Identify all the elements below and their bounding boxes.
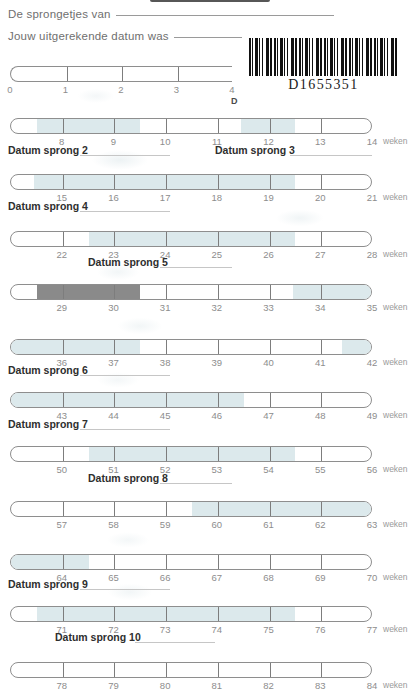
week-tick-label: 44 <box>108 410 119 421</box>
week-tick <box>166 502 167 516</box>
week-tick <box>218 393 219 407</box>
week-tick <box>114 119 115 133</box>
week-tick-label: 17 <box>160 192 171 203</box>
datum-sprong-blank-line[interactable] <box>135 642 215 643</box>
barcode: D1655351 <box>249 38 398 93</box>
week-tick <box>218 340 219 354</box>
datum-sprong-blank-line[interactable] <box>80 155 170 156</box>
week-tick <box>270 232 271 246</box>
week-tick <box>63 447 64 461</box>
leap-band-dark <box>37 285 140 299</box>
week-scale-bar[interactable] <box>10 392 372 408</box>
week-tick <box>270 555 271 569</box>
week-tick <box>63 607 64 621</box>
week-tick-label: 4 <box>229 84 234 95</box>
week-tick <box>270 607 271 621</box>
datum-sprong-blank-line[interactable] <box>80 429 170 430</box>
week-tick <box>63 663 64 677</box>
week-tick <box>114 447 115 461</box>
week-tick-label: 42 <box>367 357 378 368</box>
week-tick-label: 63 <box>367 519 378 530</box>
week-tick-label: 41 <box>315 357 326 368</box>
week-tick-label: 37 <box>108 357 119 368</box>
week-tick <box>321 119 322 133</box>
week-tick <box>178 67 179 81</box>
leap-band-light <box>293 285 372 299</box>
week-tick-label: 16 <box>108 192 119 203</box>
week-tick-label: 25 <box>212 249 223 260</box>
leap-band-light <box>37 119 140 133</box>
clipped-text-fragment: D <box>231 96 238 106</box>
week-tick-label: 2 <box>118 84 123 95</box>
week-scale-bar[interactable] <box>10 606 372 622</box>
header-label-due-date: Jouw uitgerekende datum was <box>8 30 169 42</box>
week-tick <box>218 607 219 621</box>
week-tick-label: 80 <box>160 680 171 691</box>
week-tick <box>166 447 167 461</box>
week-tick <box>166 232 167 246</box>
weken-unit-label: weken <box>383 519 408 529</box>
week-tick <box>270 663 271 677</box>
blank-line-child-name[interactable] <box>116 15 334 16</box>
weken-unit-label: weken <box>383 136 408 146</box>
datum-sprong-blank-line[interactable] <box>160 267 232 268</box>
week-tick-label: 10 <box>160 136 171 147</box>
week-scale-bar[interactable] <box>10 66 232 82</box>
blank-line-due-date[interactable] <box>174 37 242 38</box>
week-scale-bar[interactable] <box>10 174 372 190</box>
week-tick <box>218 663 219 677</box>
week-scale-bar[interactable] <box>10 118 372 134</box>
week-tick <box>63 285 64 299</box>
week-tick-label: 78 <box>56 680 67 691</box>
week-tick <box>63 119 64 133</box>
week-scale-bar[interactable] <box>10 662 372 678</box>
datum-sprong-blank-line[interactable] <box>80 375 170 376</box>
week-tick <box>321 340 322 354</box>
week-tick-label: 14 <box>367 136 378 147</box>
week-tick-label: 70 <box>367 572 378 583</box>
datum-sprong-label: Datum sprong 7 <box>8 418 88 430</box>
leap-band-light <box>11 340 140 354</box>
week-scale-bar[interactable] <box>10 501 372 517</box>
week-tick <box>166 555 167 569</box>
week-scale-bar[interactable] <box>10 339 372 355</box>
datum-sprong-blank-line[interactable] <box>160 483 232 484</box>
datum-sprong-label: Datum sprong 8 <box>88 472 168 484</box>
week-scale-bar[interactable] <box>10 231 372 247</box>
week-tick <box>218 555 219 569</box>
week-scale-bar[interactable] <box>10 554 372 570</box>
week-scale-bar[interactable] <box>10 446 372 462</box>
week-tick <box>270 175 271 189</box>
week-tick-labels: 22232425262728 <box>10 249 372 261</box>
week-tick-label: 18 <box>212 192 223 203</box>
datum-sprong-blank-line[interactable] <box>290 155 372 156</box>
week-tick-label: 54 <box>263 464 274 475</box>
weken-unit-label: weken <box>383 624 408 634</box>
week-tick <box>321 607 322 621</box>
week-tick <box>166 607 167 621</box>
week-tick <box>166 393 167 407</box>
datum-sprong-label: Datum sprong 6 <box>8 364 88 376</box>
week-tick <box>270 447 271 461</box>
week-tick-label: 30 <box>108 302 119 313</box>
week-tick-label: 62 <box>315 519 326 530</box>
week-tick-label: 73 <box>160 624 171 635</box>
week-tick <box>321 175 322 189</box>
week-tick-label: 35 <box>367 302 378 313</box>
week-scale-bar[interactable] <box>10 284 372 300</box>
datum-sprong-blank-line[interactable] <box>80 211 170 212</box>
week-tick-label: 69 <box>315 572 326 583</box>
week-tick-label: 53 <box>212 464 223 475</box>
week-tick-labels: 01234 <box>10 84 232 96</box>
leap-band-light <box>34 175 295 189</box>
week-tick-label: 55 <box>315 464 326 475</box>
leap-band-light <box>192 502 372 516</box>
week-tick-label: 61 <box>263 519 274 530</box>
week-tick <box>321 232 322 246</box>
datum-sprong-blank-line[interactable] <box>80 589 170 590</box>
week-tick-label: 48 <box>315 410 326 421</box>
week-tick-label: 50 <box>56 464 67 475</box>
week-tick <box>218 502 219 516</box>
week-tick <box>270 119 271 133</box>
week-tick-label: 3 <box>174 84 179 95</box>
